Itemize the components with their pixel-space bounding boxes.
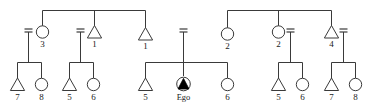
node-male-g3-1[interactable]: [10, 78, 24, 91]
node-label-g3-11: 8: [353, 92, 358, 102]
marriage-tie-couple-4: [287, 29, 295, 63]
marriage-tie-couple-2: [77, 29, 85, 63]
node-male-g2-6[interactable]: [324, 26, 338, 39]
node-label-g2-3: 1: [143, 41, 148, 51]
node-label-g3-9: 6: [300, 92, 305, 102]
node-label-g3-1: 7: [15, 92, 20, 102]
generation2-nodes: [36, 26, 338, 41]
node-label-ego: Ego: [177, 92, 191, 102]
node-male-g3-5[interactable]: [138, 78, 152, 91]
marriage-tie-group: [25, 29, 348, 63]
node-label-g3-5: 5: [143, 92, 148, 102]
node-female-g3-11[interactable]: [349, 78, 361, 90]
generation3-nodes: [10, 77, 361, 91]
node-label-g3-3: 5: [67, 92, 72, 102]
descent-lines-generation1: [43, 11, 332, 29]
node-male-g3-8[interactable]: [271, 78, 285, 91]
node-female-g2-1[interactable]: [36, 26, 48, 38]
node-label-g3-2: 8: [39, 92, 44, 102]
kinship-diagram-canvas: 3 1 1 2 2 4 7 8 5 6 5 Ego: [0, 0, 375, 110]
node-label-g2-5: 2: [276, 39, 281, 49]
node-label-g3-10: 7: [329, 92, 334, 102]
node-male-g3-10[interactable]: [324, 78, 338, 91]
node-label-g3-7: 6: [225, 92, 230, 102]
marriage-tie-couple-5: [340, 29, 348, 63]
node-label-g2-1: 3: [40, 39, 45, 49]
node-female-g3-2[interactable]: [35, 78, 47, 90]
node-male-g3-3[interactable]: [62, 78, 76, 91]
marriage-tie-couple-1: [25, 29, 33, 63]
node-label-g3-8: 5: [276, 92, 281, 102]
node-female-g3-4[interactable]: [87, 78, 99, 90]
generation3-labels: 7 8 5 6 5 Ego 6 5 6 7 8: [15, 92, 358, 102]
node-male-g2-2[interactable]: [87, 26, 101, 39]
node-female-g3-7[interactable]: [221, 78, 233, 90]
node-female-g2-5[interactable]: [272, 26, 284, 38]
node-female-g2-4[interactable]: [221, 28, 233, 40]
node-female-g3-9[interactable]: [296, 78, 308, 90]
node-label-g2-6: 4: [329, 39, 334, 49]
node-male-g2-3[interactable]: [138, 28, 152, 41]
node-label-g2-2: 1: [92, 39, 97, 49]
sibling-bars-generation3: [18, 63, 356, 79]
node-label-g3-4: 6: [91, 92, 96, 102]
marriage-tie-couple-3: [180, 29, 188, 63]
node-label-g2-4: 2: [225, 41, 230, 51]
